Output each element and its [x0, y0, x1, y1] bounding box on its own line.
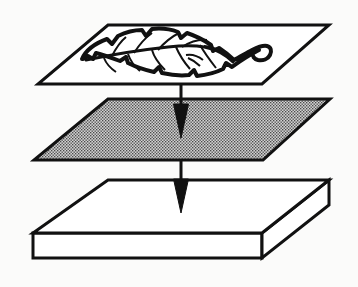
- arrow-shaft: [180, 160, 183, 179]
- figure-container: Exploded layer diagram: leaf imprint tra…: [0, 0, 358, 287]
- arrow-shaft: [180, 85, 183, 104]
- slab-front-face: [33, 233, 262, 258]
- layer-diagram-svg: [0, 0, 358, 287]
